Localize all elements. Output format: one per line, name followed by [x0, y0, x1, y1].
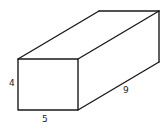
top-right-edge	[78, 11, 159, 59]
length-label: 9	[123, 85, 129, 95]
width-label: 5	[42, 114, 48, 124]
front-face	[18, 59, 78, 110]
bottom-right-edge	[78, 62, 159, 110]
rectangular-prism-diagram: 4 5 9	[0, 0, 167, 131]
top-left-edge	[18, 11, 99, 59]
height-label: 4	[9, 78, 15, 88]
